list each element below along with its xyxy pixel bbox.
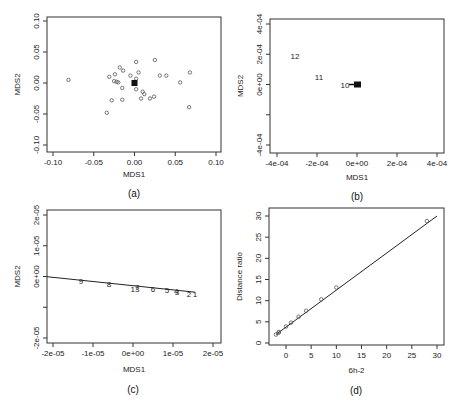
x-tick-label: -0.10 [44, 158, 63, 167]
y-tick-label: 10 [254, 296, 263, 305]
data-point [152, 95, 155, 98]
x-axis: 051015202530 [284, 345, 442, 360]
data-point [121, 86, 124, 89]
y-tick-label: 15 [254, 275, 263, 284]
y-tick-label: -0.05 [32, 104, 41, 123]
x-tick-label: 0.10 [208, 158, 224, 167]
x-tick-label: 0.00 [127, 158, 143, 167]
y-axis-label: Distance ratio [235, 252, 244, 301]
y-axis: 051015202530 [254, 211, 269, 345]
y-axis: -2e-050e+001e-052e-05 [32, 204, 47, 349]
y-tick-label: 5 [254, 319, 263, 324]
x-tick-label: 0.05 [167, 158, 183, 167]
x-axis: -0.10-0.050.000.050.10 [44, 152, 224, 167]
x-tick-label: 0e+00 [122, 349, 145, 358]
x-tick-label: 0e+00 [346, 159, 369, 168]
y-tick-label: -0.10 [32, 135, 41, 154]
x-tick-label: 2e-05 [203, 349, 224, 358]
data-point [67, 78, 70, 81]
data-point [129, 74, 132, 77]
figure-4-panel-grid: -0.10-0.050.000.050.10-0.10-0.050.000.05… [0, 0, 457, 404]
data-point [425, 219, 429, 223]
data-point [105, 111, 108, 114]
y-tick-label: 0.10 [32, 13, 41, 29]
point-label: 1 [193, 290, 198, 299]
data-point [121, 98, 124, 101]
point-label: 11 [315, 73, 324, 82]
panel-c: -2e-05-1e-050e+001e-052e-05-2e-050e+001e… [13, 204, 224, 395]
data-point [335, 286, 339, 290]
y-tick-label: 0e+00 [32, 265, 41, 288]
x-axis-label: MDS1 [123, 365, 146, 374]
x-tick-label: 10 [332, 351, 341, 360]
point-label: 12 [291, 52, 300, 61]
data-point [108, 75, 111, 78]
x-tick-label: 4e-04 [427, 159, 448, 168]
point-label: 3 [175, 288, 180, 297]
y-tick-label: 20 [254, 253, 263, 262]
y-axis: -4e-040e+002e-044e-04 [255, 13, 270, 156]
y-tick-label: 4e-04 [255, 13, 264, 34]
y-axis-label: MDS2 [13, 265, 22, 288]
y-axis: -0.10-0.050.000.050.10 [32, 13, 47, 154]
panel-d: 0510152025300510152025306h-2Distance rat… [235, 208, 444, 396]
data-point [139, 97, 142, 100]
point-label: 5 [165, 286, 170, 295]
point-label: 6 [151, 285, 156, 294]
x-tick-label: 20 [382, 351, 391, 360]
panel-caption: (d) [350, 385, 362, 396]
filled-cluster-marker [132, 80, 138, 86]
x-tick-label: 5 [309, 351, 314, 360]
y-tick-label: 2e-04 [255, 43, 264, 64]
x-tick-label: -2e-05 [41, 349, 65, 358]
data-point [118, 66, 121, 69]
data-point [134, 77, 137, 80]
x-tick-label: 25 [407, 351, 416, 360]
x-tick-label: -2e-04 [305, 159, 329, 168]
data-point [158, 74, 161, 77]
data-point [137, 71, 140, 74]
data-point [110, 99, 113, 102]
point-label: 9 [79, 277, 84, 286]
y-tick-label: 1e-05 [32, 235, 41, 256]
y-tick-label: 2e-05 [32, 204, 41, 225]
x-axis: -4e-04-2e-040e+002e-044e-04 [265, 153, 447, 168]
x-axis: -2e-05-1e-050e+001e-052e-05 [41, 343, 223, 358]
data-point [165, 74, 168, 77]
y-tick-label: 0 [254, 340, 263, 345]
y-tick-label: 30 [254, 211, 263, 220]
y-tick-label: 0e+00 [255, 73, 264, 96]
data-point [153, 58, 156, 61]
x-axis-label: MDS1 [123, 170, 146, 179]
panel-caption: (a) [128, 188, 140, 199]
x-tick-label: 0 [284, 351, 289, 360]
data-point [188, 71, 191, 74]
y-axis-label: MDS2 [13, 73, 22, 96]
x-tick-label: -4e-04 [265, 159, 289, 168]
data-point [148, 97, 151, 100]
x-axis-label: 6h-2 [348, 366, 365, 375]
data-point [178, 81, 181, 84]
panel-caption: (b) [351, 191, 363, 202]
x-tick-label: 30 [433, 351, 442, 360]
point-label: 8 [107, 280, 112, 289]
y-tick-label: -4e-04 [255, 133, 264, 157]
data-point [187, 105, 190, 108]
plot-area: 98713654321 [45, 277, 198, 300]
plot-frame [269, 208, 444, 345]
x-axis-label: MDS1 [346, 173, 369, 182]
fit-line [45, 277, 195, 293]
data-point [121, 69, 124, 72]
data-point [134, 60, 137, 63]
panel-caption: (c) [127, 384, 139, 395]
data-point [113, 73, 116, 76]
plot-area [67, 58, 192, 114]
plot-area: 121110 [291, 52, 361, 90]
plot-area [274, 216, 437, 336]
x-tick-label: -1e-05 [81, 349, 105, 358]
plot-frame [47, 210, 221, 343]
y-tick-label: -2e-05 [32, 326, 41, 350]
x-tick-label: 15 [357, 351, 366, 360]
x-tick-label: 2e-04 [387, 159, 408, 168]
panel-a: -0.10-0.050.000.050.10-0.10-0.050.000.05… [13, 13, 224, 199]
